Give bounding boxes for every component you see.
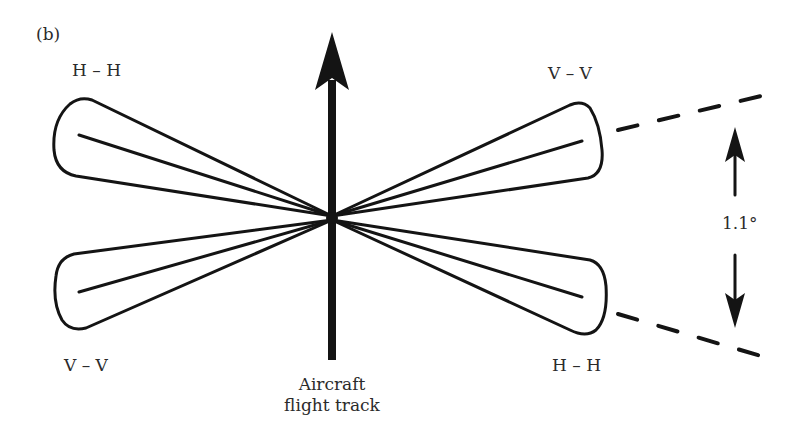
lobe-axis-top-right (332, 141, 582, 216)
antenna-beam-diagram (0, 0, 812, 437)
label-bottom-left-vv: V – V (64, 355, 108, 375)
beam-angle-label: 1.1° (722, 213, 758, 233)
flight-track-caption: Aircraft flight track (272, 374, 392, 416)
dashed-line-lower (618, 314, 778, 361)
label-bottom-right-hh: H – H (552, 355, 601, 375)
label-top-left-hh: H – H (72, 60, 121, 80)
lobe-top-left (54, 99, 332, 216)
label-top-right-vv: V – V (548, 63, 592, 83)
dashed-line-upper (618, 92, 778, 130)
lobe-axis-top-left (79, 135, 332, 216)
caption-line-1: Aircraft (272, 374, 392, 395)
lobe-axis-bottom-left (79, 220, 332, 292)
lobe-bottom-left (55, 220, 332, 329)
lobe-bottom-right (332, 220, 606, 334)
lobe-top-right (332, 103, 602, 216)
lobe-axis-bottom-right (332, 220, 582, 297)
caption-line-2: flight track (272, 395, 392, 416)
panel-label: (b) (36, 24, 60, 44)
beam-origin (326, 212, 338, 224)
